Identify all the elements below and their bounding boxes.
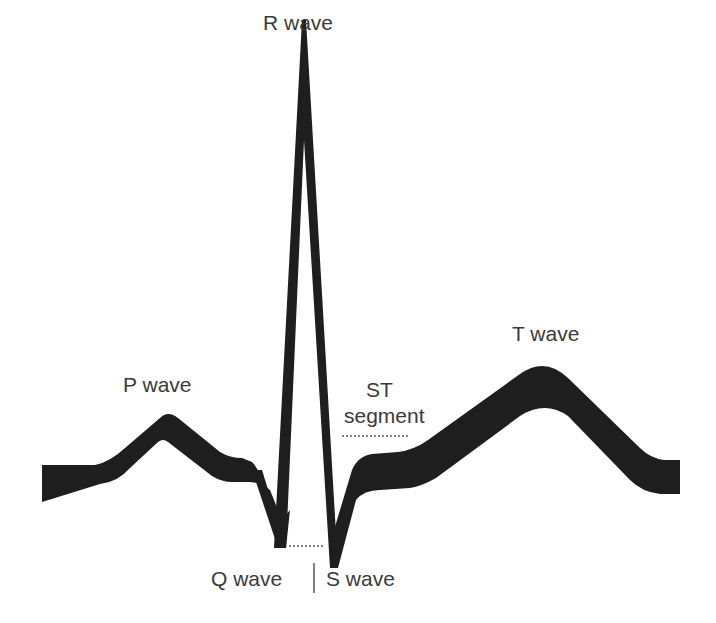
ecg-trace — [0, 0, 716, 623]
q-wave-label: Q wave — [211, 568, 282, 589]
p-wave-shape — [42, 414, 290, 548]
p-wave-label: P wave — [123, 374, 192, 395]
s-wave-label: S wave — [326, 568, 395, 589]
st-segment-label-line1: ST — [366, 379, 393, 400]
st-segment-label-line2: segment — [344, 405, 425, 426]
r-wave-label: R wave — [263, 12, 333, 33]
ecg-diagram: R wave P wave ST segment T wave Q wave S… — [0, 0, 716, 623]
qrs-complex-shape — [274, 20, 338, 568]
t-wave-label: T wave — [512, 323, 579, 344]
